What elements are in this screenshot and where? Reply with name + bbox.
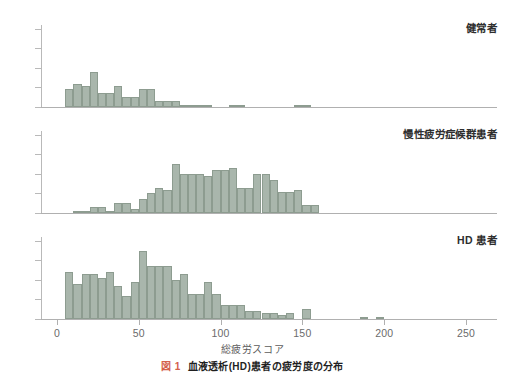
histogram-bar [114,203,122,213]
histogram-bar [229,105,237,107]
histogram-bar [196,174,204,213]
histogram-bar [302,309,310,319]
histogram-bar [163,190,171,213]
panel-label-healthy-controls: 健常者 [466,20,497,35]
histogram-bar [204,176,212,213]
histogram-bar [245,188,253,213]
x-tick-label: 150 [293,327,311,339]
y-tick-mark [35,135,41,136]
bars-panel-0 [57,25,466,107]
histogram-bar [253,311,261,319]
histogram-bar [131,209,139,213]
histogram-bar [229,305,237,319]
figure-caption: 図 1血液透析(HD)患者の疲労度の分布 [0,358,505,373]
x-tick-label: 200 [375,327,393,339]
histogram-bar [82,211,90,213]
histogram-bar [294,190,302,213]
histogram-bar [65,89,73,107]
histogram-bar [204,282,212,319]
y-tick-mark [35,29,41,30]
histogram-bar [270,313,278,319]
histogram-bar [172,101,180,107]
histogram-bar [147,193,155,213]
panel-label-cfs-patients: 慢性疲労症候群患者 [403,126,497,141]
histogram-bar [90,72,98,107]
histogram-bar [82,86,90,107]
histogram-bar [180,174,188,213]
histogram-bar [172,280,180,319]
histogram-bar [73,84,81,107]
bars-panel-1 [57,131,466,213]
histogram-bar [98,93,106,107]
histogram-bar [286,313,294,319]
histogram-bar [188,294,196,319]
histogram-bar [172,164,180,213]
histogram-bar [229,168,237,213]
x-tick-mark [384,320,385,325]
histogram-bar [188,105,196,107]
histogram-bar [82,274,90,319]
histogram-bar [237,188,245,213]
histogram-bar [90,207,98,213]
y-tick-mark [35,280,41,281]
histogram-bar [114,286,122,319]
histogram-bar [131,97,139,107]
histogram-bar [122,203,130,213]
histogram-bar [212,170,220,213]
y-tick-mark [35,319,41,320]
histogram-bar [114,86,122,107]
y-tick-mark [35,154,41,155]
y-tick-mark [35,213,41,214]
y-tick-mark [35,299,41,300]
histogram-bar [106,211,114,213]
histogram-bar [262,174,270,213]
histogram-bar [204,105,212,107]
histogram-bar [270,180,278,213]
x-tick-label: 100 [212,327,230,339]
figure-container: 健常者 010203040 慢性疲労症候群患者 010203040 HD 患者 … [0,0,505,378]
x-tick-mark [57,320,58,325]
plot-area-panel-0 [41,25,497,107]
histogram-bar [302,205,310,213]
figure-caption-text: 血液透析(HD)患者の疲労度の分布 [188,361,344,372]
y-tick-mark [35,87,41,88]
histogram-bar [221,170,229,213]
histogram-bar [212,294,220,319]
x-axis-line-panel-2 [41,319,497,320]
histogram-bar [360,317,368,319]
histogram-bar [147,89,155,107]
x-axis-line-panel-0 [41,107,497,108]
histogram-bar [221,305,229,319]
y-tick-mark [35,241,41,242]
histogram-bar [98,278,106,319]
histogram-bar [253,174,261,213]
panel-healthy-controls: 健常者 010203040 [0,18,505,118]
y-tick-mark [35,193,41,194]
histogram-bar [73,284,81,319]
histogram-bar [106,93,114,107]
x-tick-mark [139,320,140,325]
x-tick-label: 250 [457,327,475,339]
histogram-bar [131,282,139,319]
plot-area-panel-2 [41,237,497,319]
histogram-bar [237,105,245,107]
bars-panel-2 [57,237,466,319]
panel-hd-patients: HD 患者 010203040050100150200250 [0,230,505,330]
histogram-bar [196,105,204,107]
histogram-bar [262,313,270,319]
histogram-bar [139,199,147,213]
histogram-bar [139,251,147,319]
histogram-bar [139,89,147,107]
histogram-bar [122,97,130,107]
histogram-bar [180,105,188,107]
histogram-bar [245,311,253,319]
x-axis-line-panel-1 [41,213,497,214]
histogram-bar [73,211,81,213]
x-tick-label: 0 [54,327,60,339]
histogram-bar [122,296,130,319]
histogram-bar [155,188,163,213]
y-tick-mark [35,260,41,261]
panel-label-hd-patients: HD 患者 [457,232,497,247]
histogram-bar [278,315,286,319]
histogram-bar [237,305,245,319]
